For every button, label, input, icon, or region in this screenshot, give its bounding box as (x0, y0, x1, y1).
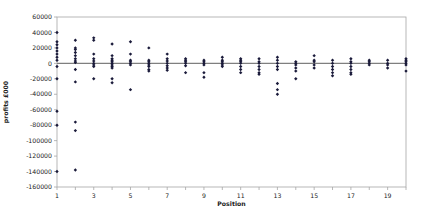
data-point-marker (74, 51, 77, 54)
data-point-marker (294, 66, 297, 69)
data-point-marker (55, 59, 58, 62)
data-point-marker (331, 74, 334, 77)
scatter-chart: 6000040000200000-20000-40000-60000-80000… (0, 0, 425, 216)
data-point-marker (74, 54, 77, 57)
data-point-marker (74, 168, 77, 171)
x-tick-label: 13 (273, 192, 281, 199)
y-axis-title: profits £000 (2, 80, 10, 123)
data-point-marker (276, 62, 279, 65)
data-point-marker (129, 52, 132, 55)
data-point-marker (331, 71, 334, 74)
data-point-marker (276, 93, 279, 96)
x-axis-ticks: 135791113151719 (55, 187, 406, 199)
x-tick-label: 17 (347, 192, 355, 199)
data-point-marker (331, 59, 334, 62)
data-point-marker (55, 55, 58, 58)
data-point-marker (55, 52, 58, 55)
data-point-marker (55, 31, 58, 34)
data-point-marker (276, 55, 279, 58)
data-point-marker (74, 80, 77, 83)
data-point-marker (239, 68, 242, 71)
data-point-marker (55, 49, 58, 52)
y-tick-label: -140000 (26, 168, 52, 175)
data-point-marker (202, 71, 205, 74)
data-point-marker (349, 68, 352, 71)
data-point-marker (331, 68, 334, 71)
data-point-marker (404, 69, 407, 72)
data-point-marker (294, 69, 297, 72)
data-point-marker (92, 52, 95, 55)
x-axis-title: Position (217, 200, 245, 207)
data-point-marker (55, 123, 58, 126)
data-point-marker (129, 88, 132, 91)
data-point-marker (276, 88, 279, 91)
data-point-marker (74, 120, 77, 123)
data-point-marker (312, 54, 315, 57)
x-tick-label: 5 (129, 192, 133, 199)
data-point-marker (349, 65, 352, 68)
data-point-marker (55, 65, 58, 68)
y-axis-ticks: 6000040000200000-20000-40000-60000-80000… (26, 13, 57, 190)
data-point-marker (110, 81, 113, 84)
data-point-marker (257, 57, 260, 60)
y-tick-label: -40000 (30, 90, 52, 97)
data-point-marker (184, 71, 187, 74)
x-tick-label: 3 (92, 192, 96, 199)
y-tick-label: -160000 (26, 183, 52, 190)
data-point-marker (239, 71, 242, 74)
x-tick-label: 11 (237, 192, 245, 199)
x-tick-label: 1 (55, 192, 59, 199)
plot-frame (57, 17, 406, 187)
data-point-marker (74, 68, 77, 71)
data-point-marker (312, 66, 315, 69)
y-tick-label: -100000 (26, 137, 52, 144)
data-point-marker (239, 65, 242, 68)
x-tick-label: 15 (310, 192, 318, 199)
y-tick-label: 60000 (32, 13, 52, 20)
data-point-marker (74, 38, 77, 41)
x-tick-label: 7 (165, 192, 169, 199)
data-point-marker (386, 59, 389, 62)
x-tick-label: 19 (384, 192, 392, 199)
data-point-marker (92, 77, 95, 80)
y-tick-label: 40000 (32, 29, 52, 36)
data-point-marker (147, 46, 150, 49)
data-point-marker (221, 55, 224, 58)
data-point-marker (184, 64, 187, 67)
y-tick-label: -20000 (30, 75, 52, 82)
y-tick-label: -60000 (30, 106, 52, 113)
y-tick-label: -120000 (26, 152, 52, 159)
data-point-marker (55, 46, 58, 49)
data-point-marker (276, 59, 279, 62)
data-point-marker (110, 54, 113, 57)
data-point-marker (55, 170, 58, 173)
data-point-marker (55, 40, 58, 43)
y-tick-label: -80000 (30, 121, 52, 128)
data-point-marker (349, 57, 352, 60)
data-point-marker (92, 38, 95, 41)
data-point-marker (257, 65, 260, 68)
data-point-marker (294, 77, 297, 80)
y-tick-label: 20000 (32, 44, 52, 51)
data-point-marker (276, 65, 279, 68)
data-point-marker (129, 40, 132, 43)
data-point-marker (166, 52, 169, 55)
data-point-marker (55, 77, 58, 80)
data-point-marker (74, 129, 77, 132)
plot-area-border (57, 17, 406, 187)
data-point-marker (110, 42, 113, 45)
data-point-marker (110, 77, 113, 80)
data-point-marker (331, 62, 334, 65)
data-point-marker (202, 76, 205, 79)
data-point-marker (276, 68, 279, 71)
data-points (55, 31, 407, 173)
y-tick-label: 0 (48, 60, 52, 67)
x-tick-label: 9 (202, 192, 206, 199)
data-point-marker (166, 69, 169, 72)
data-point-marker (331, 65, 334, 68)
data-point-marker (386, 66, 389, 69)
data-point-marker (55, 43, 58, 46)
data-point-marker (257, 68, 260, 71)
data-point-marker (276, 82, 279, 85)
